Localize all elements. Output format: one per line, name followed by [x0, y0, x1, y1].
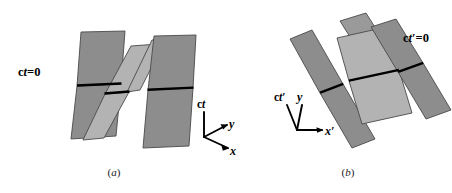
panel-a-axis-triad [204, 112, 229, 151]
panel-b-simultaneity-label: ct′=0 [403, 31, 429, 45]
panel-a-simultaneity-label: ct=0 [18, 65, 40, 79]
panel-b-axis-ct-prime [287, 105, 297, 130]
panel-b-axis-label-y: y [295, 90, 303, 104]
relativity-slabs-figure: ct=0 ct y x (a) [0, 0, 452, 193]
panel-b-axis-label-x-prime: x′ [324, 124, 334, 138]
panel-a-axis-label-ct: ct [197, 98, 206, 110]
panel-a-caption: (a) [108, 166, 121, 179]
panel-b: ct′=0 ct′ y x′ (b) [274, 13, 451, 179]
panel-a-axis-label-x: x [229, 144, 236, 158]
panel-b-axis-triad [287, 105, 324, 133]
panel-a: ct=0 ct y x (a) [18, 31, 236, 179]
figure-root: ct=0 ct y x (a) [0, 0, 452, 193]
panel-b-caption: (b) [342, 166, 355, 179]
panel-a-slab-4-lower [143, 88, 193, 148]
panel-a-axis-x [204, 137, 228, 148]
panel-b-axis-y [297, 105, 302, 130]
panel-b-axis-label-ct-prime: ct′ [274, 91, 286, 103]
panel-b-slab-1-upper [290, 30, 343, 93]
panel-a-slab-4-upper [148, 35, 196, 90]
panel-a-axis-label-y: y [227, 117, 235, 131]
panel-b-axis-x-prime-arrowhead [317, 127, 324, 133]
